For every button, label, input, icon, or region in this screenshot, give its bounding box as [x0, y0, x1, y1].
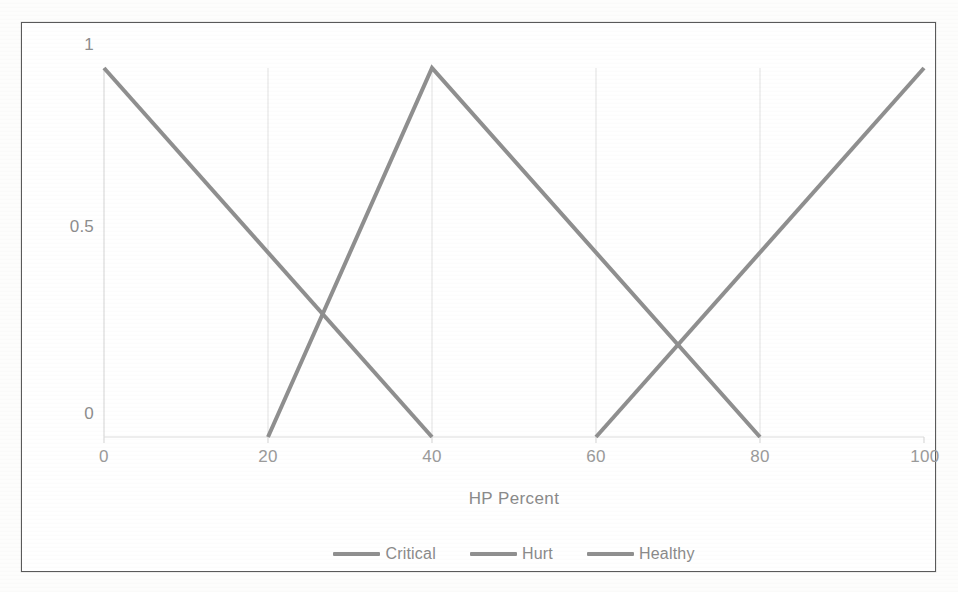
plot-svg	[104, 68, 924, 437]
legend-item-hurt[interactable]: Hurt	[470, 545, 553, 563]
legend-label-hurt: Hurt	[522, 545, 553, 563]
series-line-hurt	[268, 68, 760, 437]
legend-swatch-icon-hurt	[470, 552, 517, 555]
legend-item-healthy[interactable]: Healthy	[587, 545, 695, 563]
scanned-page: 1 0.5 0	[0, 0, 958, 592]
y-tick-label-1: 1	[32, 35, 94, 55]
data-series-group	[104, 68, 924, 437]
x-tick-label-0: 0	[69, 447, 139, 467]
x-axis-title: HP Percent	[104, 489, 924, 509]
x-tick-label-80: 80	[725, 447, 795, 467]
x-tick-label-100: 100	[890, 447, 958, 467]
x-tick-label-20: 20	[233, 447, 303, 467]
y-axis-labels: 1 0.5 0	[22, 23, 94, 592]
y-tick-label-05: 0.5	[32, 217, 94, 237]
legend-item-critical[interactable]: Critical	[333, 545, 436, 563]
x-axis-ticks	[104, 437, 924, 443]
chart-frame: 1 0.5 0	[21, 22, 936, 572]
x-axis-labels: 0 20 40 60 80 100	[22, 447, 958, 473]
x-tick-label-60: 60	[561, 447, 631, 467]
legend-label-critical: Critical	[385, 545, 436, 563]
y-tick-label-0: 0	[32, 404, 94, 424]
gridlines-vertical	[268, 68, 760, 437]
legend-swatch-icon-healthy	[587, 552, 634, 555]
plot-area	[104, 68, 924, 437]
legend-label-healthy: Healthy	[639, 545, 695, 563]
chart-legend: Critical Hurt Healthy	[104, 545, 924, 563]
x-tick-label-40: 40	[397, 447, 467, 467]
legend-swatch-icon-critical	[333, 552, 380, 555]
